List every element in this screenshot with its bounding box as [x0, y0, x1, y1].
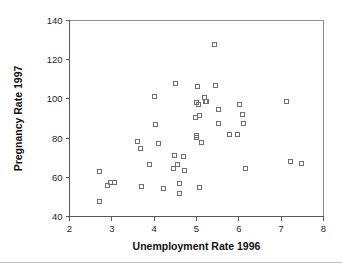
data-point [300, 162, 304, 166]
data-point [162, 187, 166, 191]
data-point [244, 167, 248, 171]
x-tick-label: 8 [321, 223, 326, 234]
data-point [285, 100, 289, 104]
x-tick-label: 6 [236, 223, 241, 234]
data-point [217, 108, 221, 112]
data-point [200, 141, 204, 145]
y-tick-label: 100 [47, 93, 63, 104]
data-point [236, 133, 240, 137]
data-point [157, 142, 161, 146]
x-tick-label: 5 [194, 223, 199, 234]
data-point [182, 155, 186, 159]
data-point [173, 154, 177, 158]
x-tick-label: 2 [67, 223, 72, 234]
data-point [178, 182, 182, 186]
data-point [238, 103, 242, 107]
y-tick-label: 140 [47, 15, 63, 26]
data-point [98, 170, 102, 174]
x-tick-label: 4 [152, 223, 157, 234]
data-point [213, 43, 217, 47]
data-point [183, 169, 187, 173]
data-point [139, 147, 143, 151]
x-tick-label: 3 [109, 223, 114, 234]
data-point [228, 133, 232, 137]
data-point [217, 122, 221, 126]
y-axis-title: Pregnancy Rate 1997 [12, 66, 24, 172]
data-point [196, 85, 200, 89]
data-point [153, 95, 157, 99]
data-point [154, 123, 158, 127]
scatter-plot: 4060801001201402345678Unemployment Rate … [0, 0, 342, 268]
data-point [136, 140, 140, 144]
y-tick-label: 80 [52, 133, 63, 144]
data-point [174, 82, 178, 86]
chart-figure: 4060801001201402345678Unemployment Rate … [0, 0, 342, 268]
y-tick-label: 120 [47, 54, 63, 65]
data-point [242, 122, 246, 126]
data-point [198, 186, 202, 190]
x-tick-label: 7 [279, 223, 284, 234]
y-tick-label: 40 [52, 211, 63, 222]
data-point [289, 160, 293, 164]
data-point [241, 113, 245, 117]
data-point [106, 184, 110, 188]
data-point [148, 163, 152, 167]
x-axis-title: Unemployment Rate 1996 [133, 240, 261, 252]
data-point [214, 84, 218, 88]
data-point [98, 200, 102, 204]
y-tick-label: 60 [52, 172, 63, 183]
data-point [178, 192, 182, 196]
data-point [140, 185, 144, 189]
